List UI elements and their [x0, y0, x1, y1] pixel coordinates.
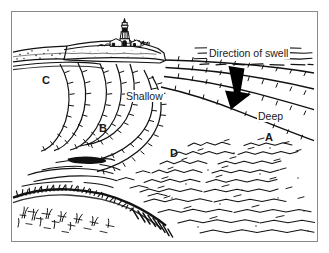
figure-canvas: Direction of swell Shallow Deep A B C D [0, 0, 329, 253]
label-shallow: Shallow [125, 90, 164, 102]
wave-crest-C2 [54, 63, 91, 151]
shoreline-water-edge [13, 62, 104, 69]
grass-bank [13, 185, 173, 239]
label-c: C [42, 74, 50, 86]
wet-rock-shadow [68, 156, 115, 163]
label-deep: Deep [257, 110, 284, 122]
label-direction-of-swell: Direction of swell [207, 47, 290, 59]
wave-crest-C [70, 64, 112, 151]
label-a: A [265, 131, 273, 143]
surf-swash-lines [22, 160, 120, 188]
down-arrow-icon [225, 66, 251, 110]
figure-frame: Direction of swell Shallow Deep A B C D [11, 11, 318, 242]
whitecap-marks [158, 138, 304, 219]
label-b: B [99, 122, 107, 134]
label-d: D [170, 147, 178, 159]
inner-bay-ripples [118, 171, 167, 196]
beach-band [13, 46, 67, 62]
